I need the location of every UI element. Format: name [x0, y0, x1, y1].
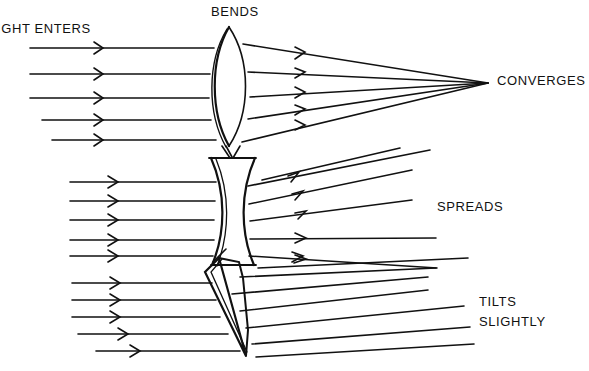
tilted-ray: [256, 344, 474, 357]
refracted-ray: [250, 83, 488, 97]
diverging-ray: [248, 150, 430, 186]
biconvex-lens: [212, 27, 246, 147]
biconcave-lens: [209, 158, 256, 266]
label-spreads: SPREADS: [437, 200, 503, 213]
tilted-ray: [232, 277, 428, 294]
entry-ray: [233, 146, 240, 158]
label-bends: BENDS: [211, 5, 259, 18]
diverging-ray: [262, 148, 400, 180]
tilted-ray: [240, 268, 436, 277]
refracted-ray: [248, 83, 488, 119]
optics-diagram: IGHT ENTERS BENDS CONVERGES SPREADS TILT…: [0, 0, 589, 371]
prism-ray-group: [72, 252, 474, 357]
ray-arrowhead: [295, 87, 305, 98]
tilted-ray: [246, 306, 464, 328]
concave-lens-ray-group: [70, 148, 437, 268]
label-slightly: SLIGHTLY: [479, 315, 546, 328]
diverging-ray: [250, 200, 412, 221]
refracted-ray: [242, 83, 488, 142]
prism-wedge: [205, 258, 248, 356]
diverging-ray: [249, 170, 412, 204]
label-light-enters: IGHT ENTERS: [0, 22, 91, 35]
diverging-ray: [249, 256, 437, 268]
convex-lens-ray-group: [30, 42, 488, 146]
tilted-ray: [240, 290, 428, 311]
diverging-ray: [250, 238, 436, 239]
tilted-ray: [252, 327, 470, 344]
label-converges: CONVERGES: [497, 74, 585, 87]
tilted-ray: [258, 258, 468, 268]
ray-arrowhead: [295, 68, 305, 78]
concave-entry-rays: [222, 146, 240, 158]
ray-arrowhead: [295, 105, 305, 115]
label-tilts: TILTS: [479, 295, 516, 308]
